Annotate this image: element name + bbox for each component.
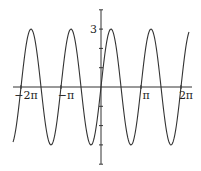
y-tick-label: 3	[90, 23, 97, 36]
sine-plot: −2π−ππ2π 3	[0, 0, 201, 171]
x-tick-label: −2π	[14, 89, 37, 102]
x-tick-label: π	[142, 89, 149, 102]
